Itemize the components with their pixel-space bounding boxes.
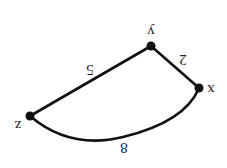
graph-diagram: y x z 5 2 8: [0, 0, 227, 168]
edge-z-y: [30, 46, 151, 116]
edge-z-x: [30, 88, 199, 141]
edge-weight-z-y: 5: [86, 62, 94, 78]
node-y: [147, 42, 156, 51]
node-label-z: z: [14, 118, 21, 134]
edge-weight-z-x: 8: [120, 140, 128, 156]
node-x: [195, 84, 204, 93]
node-label-y: y: [147, 24, 155, 40]
node-label-x: x: [207, 82, 215, 98]
edge-y-x: [151, 46, 199, 88]
node-z: [26, 112, 35, 121]
edge-weight-y-x: 2: [179, 52, 187, 68]
